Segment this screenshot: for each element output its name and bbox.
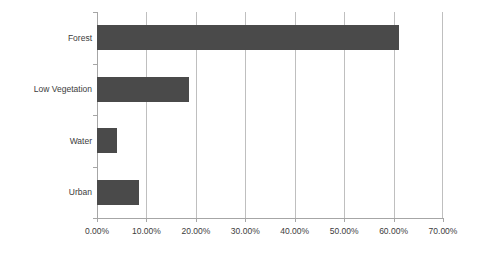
y-axis-tick (93, 64, 97, 65)
x-axis-tick (344, 218, 345, 222)
x-axis-tick (245, 218, 246, 222)
plot-area (97, 12, 443, 218)
bar-forest (97, 25, 399, 50)
category-label-urban: Urban (4, 187, 92, 197)
y-axis-category-labels: ForestLow VegetationWaterUrban (0, 12, 92, 218)
bar-water (97, 128, 117, 153)
y-axis-tick (93, 12, 97, 13)
x-axis-tick (146, 218, 147, 222)
bar-urban (97, 180, 139, 205)
x-axis-line (97, 218, 444, 219)
x-gridline (442, 12, 443, 218)
x-axis-tick-label: 70.00% (413, 226, 473, 236)
y-axis-tick (93, 167, 97, 168)
x-axis-tick (196, 218, 197, 222)
category-label-water: Water (4, 136, 92, 146)
bar-low-vegetation (97, 77, 189, 102)
category-label-low-vegetation: Low Vegetation (4, 84, 92, 94)
x-axis-tick (97, 218, 98, 222)
category-label-forest: Forest (4, 33, 92, 43)
x-axis-tick (295, 218, 296, 222)
y-axis-tick (93, 115, 97, 116)
y-axis-tick (93, 218, 97, 219)
x-axis-tick (443, 218, 444, 222)
x-axis-tick (394, 218, 395, 222)
bar-chart: ForestLow VegetationWaterUrban 0.00%10.0… (0, 0, 481, 256)
